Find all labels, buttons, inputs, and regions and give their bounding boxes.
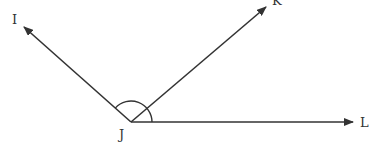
ray-jk — [131, 7, 266, 122]
angle-diagram: I K L J — [0, 0, 386, 144]
label-k: K — [272, 0, 282, 8]
label-i: I — [12, 12, 17, 27]
label-j: J — [117, 127, 124, 142]
label-l: L — [360, 115, 369, 130]
